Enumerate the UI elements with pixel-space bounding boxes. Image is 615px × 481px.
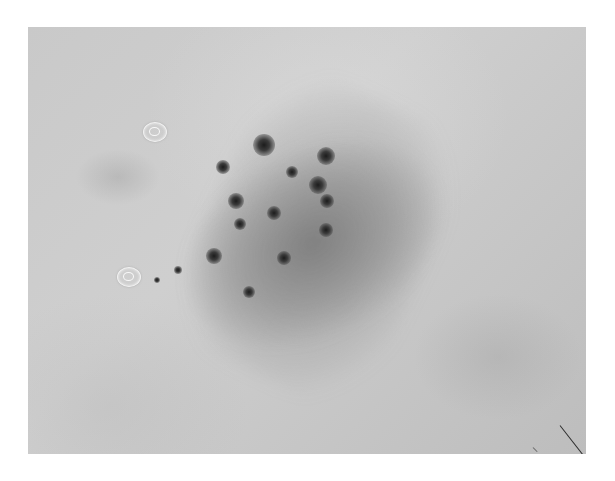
pigment-dot (174, 266, 182, 274)
pigment-dot (216, 160, 230, 174)
pigment-dot (228, 193, 244, 209)
pigment-dot (317, 147, 335, 165)
pigment-dot (286, 166, 298, 178)
pigment-dot (320, 194, 334, 208)
dermoscopy-photo (28, 27, 586, 454)
hair-strand (533, 447, 538, 452)
pigment-dot (253, 134, 275, 156)
pigment-dot (277, 251, 291, 265)
pigment-dot (309, 176, 327, 194)
pigment-dot (267, 206, 281, 220)
air-bubble (143, 122, 167, 142)
pigment-dot (154, 277, 160, 283)
lesion-patch (110, 63, 506, 451)
air-bubble (117, 267, 141, 287)
pigment-dot (319, 223, 333, 237)
pigment-dot (234, 218, 246, 230)
hair-strand (560, 425, 584, 454)
pigment-dot (206, 248, 222, 264)
pigment-dot (243, 286, 255, 298)
